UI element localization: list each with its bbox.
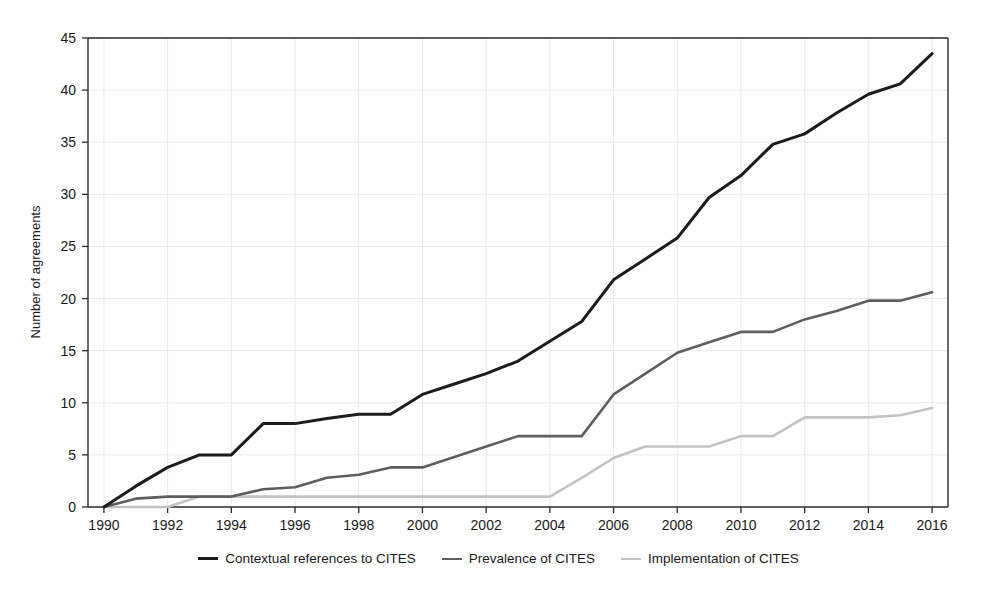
x-tick-label: 2004: [534, 517, 565, 533]
x-tick-label: 2006: [598, 517, 629, 533]
y-tick-label: 20: [60, 291, 76, 307]
y-tick-label: 35: [60, 134, 76, 150]
y-tick-label: 25: [60, 238, 76, 254]
series-line: [104, 408, 932, 507]
series-line: [104, 54, 932, 507]
x-tick-label: 1994: [216, 517, 247, 533]
data-series: [104, 54, 932, 507]
x-tick-label: 2002: [471, 517, 502, 533]
legend-item[interactable]: Prevalence of CITES: [442, 551, 595, 566]
x-axis-tick-labels: 1990199219941996199820002002200420062008…: [88, 517, 948, 533]
legend-line-swatch-icon: [621, 558, 641, 560]
y-tick-label: 40: [60, 82, 76, 98]
x-tick-label: 2008: [662, 517, 693, 533]
legend-item[interactable]: Implementation of CITES: [621, 551, 799, 566]
chart-container: 051015202530354045 199019921994199619982…: [0, 0, 997, 592]
y-axis-title: Number of agreements: [28, 205, 43, 338]
x-tick-label: 2016: [916, 517, 947, 533]
x-tick-label: 2014: [853, 517, 884, 533]
y-tick-label: 30: [60, 186, 76, 202]
y-tick-label: 0: [68, 499, 76, 515]
y-tick-label: 5: [68, 447, 76, 463]
x-tick-label: 1992: [152, 517, 183, 533]
x-tick-label: 1998: [343, 517, 374, 533]
y-tick-label: 15: [60, 343, 76, 359]
legend-line-swatch-icon: [442, 558, 462, 560]
legend-label: Implementation of CITES: [648, 551, 799, 566]
chart-legend: Contextual references to CITESPrevalence…: [0, 551, 997, 566]
x-tick-label: 1990: [88, 517, 119, 533]
legend-line-swatch-icon: [198, 557, 218, 560]
y-axis-tick-labels: 051015202530354045: [60, 30, 76, 515]
series-line: [104, 292, 932, 507]
x-tick-label: 2012: [789, 517, 820, 533]
y-tick-label: 45: [60, 30, 76, 46]
x-tick-label: 2010: [725, 517, 756, 533]
legend-label: Prevalence of CITES: [469, 551, 595, 566]
x-tick-label: 2000: [407, 517, 438, 533]
line-chart: 051015202530354045 199019921994199619982…: [0, 0, 997, 545]
x-tick-label: 1996: [279, 517, 310, 533]
legend-item[interactable]: Contextual references to CITES: [198, 551, 416, 566]
y-tick-label: 10: [60, 395, 76, 411]
legend-label: Contextual references to CITES: [225, 551, 416, 566]
